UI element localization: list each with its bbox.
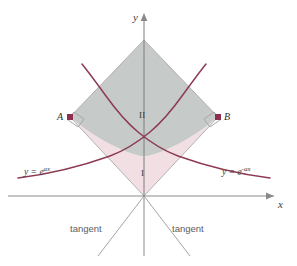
math-figure: y x A B y = eax y = e-ax I II tangent ta… <box>0 0 297 266</box>
point-b-label: B <box>224 112 230 122</box>
tangent-line-left <box>98 196 144 256</box>
y-axis-label: y <box>133 12 138 23</box>
x-axis-label: x <box>278 199 283 210</box>
point-a-label: A <box>57 112 63 122</box>
point-b-marker <box>215 114 221 120</box>
y-axis-arrowhead <box>141 13 148 21</box>
point-a-marker <box>67 114 73 120</box>
x-axis-arrowhead <box>266 193 274 200</box>
curve-right-equation-text: y = e <box>222 167 242 177</box>
region-one-label: I <box>141 169 144 178</box>
region-two-label: II <box>139 111 146 120</box>
tangent-label-right: tangent <box>172 224 204 234</box>
curve-right-equation-exponent: -ax <box>242 165 251 173</box>
tangent-label-left: tangent <box>70 224 102 234</box>
curve-right-equation-label: y = e-ax <box>222 166 251 178</box>
curve-left-equation-exponent: ax <box>44 165 51 173</box>
curve-left-equation-label: y = eax <box>24 166 50 178</box>
curve-left-equation-text: y = e <box>24 167 44 177</box>
figure-canvas <box>0 0 297 266</box>
